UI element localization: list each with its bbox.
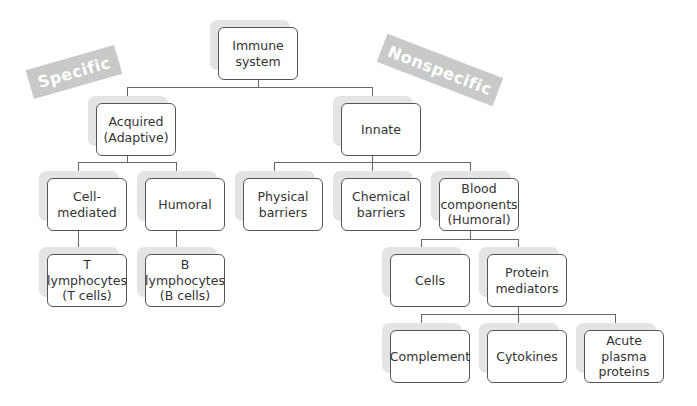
node-cytokines: Cytokines bbox=[487, 330, 567, 383]
connector bbox=[258, 80, 259, 87]
node-humoral: Humoral bbox=[145, 178, 225, 231]
node-cells: Cells bbox=[390, 254, 470, 307]
node-chemical-barriers: Chemical barriers bbox=[341, 178, 421, 231]
node-innate: Innate bbox=[341, 103, 421, 156]
connector bbox=[78, 162, 176, 163]
connector bbox=[470, 231, 471, 239]
connector bbox=[127, 87, 373, 88]
node-acquired: Acquired (Adaptive) bbox=[96, 103, 176, 156]
node-immune-system: Immune system bbox=[218, 27, 298, 80]
node-b-lymphocytes: B lymphocytes (B cells) bbox=[145, 254, 225, 307]
node-cell-mediated: Cell- mediated bbox=[47, 178, 127, 231]
node-t-lymphocytes: T lymphocytes (T cells) bbox=[47, 254, 127, 307]
node-protein-mediators: Protein mediators bbox=[487, 254, 567, 307]
specific-label: Specific bbox=[26, 45, 123, 99]
node-blood-components: Blood components (Humoral) bbox=[439, 178, 519, 231]
node-physical-barriers: Physical barriers bbox=[243, 178, 323, 231]
node-acute-plasma-proteins: Acute plasma proteins bbox=[584, 330, 664, 383]
connector bbox=[421, 239, 519, 240]
node-complement: Complement bbox=[390, 330, 470, 383]
